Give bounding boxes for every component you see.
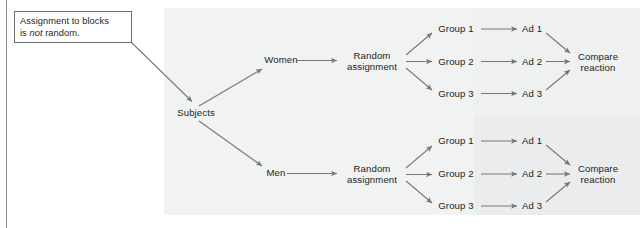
compare-lower-line-1: Compare (578, 163, 618, 174)
node-block-men: Men (267, 167, 286, 179)
node-ad2-upper: Ad 2 (522, 56, 542, 68)
node-ad3-upper: Ad 3 (522, 88, 542, 100)
node-random-assignment-lower: Random assignment (347, 163, 397, 186)
random-assignment-upper-line-2: assignment (347, 61, 397, 72)
compare-upper-line-2: reaction (578, 62, 618, 73)
node-block-women: Women (264, 54, 297, 66)
arrow-ad1-to-compare-lower (546, 145, 570, 165)
random-assignment-lower-line-1: Random (347, 163, 397, 174)
arrow-random-w-to-group3 (406, 68, 432, 90)
arrow-ad3-to-compare-lower (546, 182, 570, 202)
node-random-assignment-upper: Random assignment (347, 50, 397, 73)
random-assignment-lower-line-2: assignment (347, 174, 397, 185)
node-group2-upper: Group 2 (438, 56, 473, 68)
node-ad1-lower: Ad 1 (522, 135, 542, 147)
arrow-subjects-to-men (199, 121, 262, 166)
arrow-layer (0, 0, 644, 228)
random-assignment-upper-line-1: Random (347, 50, 397, 61)
compare-lower-line-2: reaction (578, 174, 618, 185)
node-group3-lower: Group 3 (438, 200, 473, 212)
node-ad2-lower: Ad 2 (522, 168, 542, 180)
callout-pointer-arrow (131, 42, 192, 102)
node-subjects: Subjects (177, 107, 215, 119)
node-group2-lower: Group 2 (438, 168, 473, 180)
arrow-ad1-to-compare-upper (546, 33, 570, 53)
arrow-random-w-to-group1 (406, 33, 432, 55)
arrow-random-m-to-group1 (406, 146, 432, 168)
arrow-subjects-to-women (199, 69, 262, 106)
node-group1-lower: Group 1 (438, 135, 473, 147)
node-compare-reaction-upper: Compare reaction (578, 50, 618, 73)
compare-upper-line-1: Compare (578, 50, 618, 61)
node-group3-upper: Group 3 (438, 88, 473, 100)
node-ad1-upper: Ad 1 (522, 23, 542, 35)
node-compare-reaction-lower: Compare reaction (578, 163, 618, 186)
figure-canvas: Assignment to blocks is not random. (0, 0, 644, 228)
node-group1-upper: Group 1 (438, 23, 473, 35)
node-ad3-lower: Ad 3 (522, 200, 542, 212)
arrow-random-m-to-group3 (406, 181, 432, 203)
arrow-ad3-to-compare-upper (546, 70, 570, 90)
